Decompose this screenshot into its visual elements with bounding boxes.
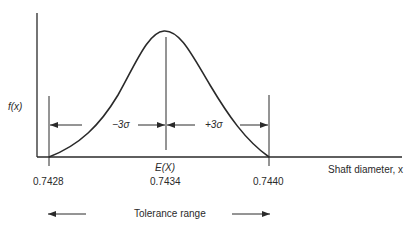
mean-label: E(X) xyxy=(155,162,175,173)
normal-curve xyxy=(49,31,269,157)
tick-label-0.7434: 0.7434 xyxy=(150,176,181,187)
tick-label-0.7440: 0.7440 xyxy=(253,176,284,187)
y-axis-label: f(x) xyxy=(8,101,22,112)
x-axis-label: Shaft diameter, x xyxy=(328,164,403,175)
minus-3sigma-label: −3σ xyxy=(112,119,129,130)
plus-3sigma-label: +3σ xyxy=(205,119,222,130)
normal-distribution-diagram xyxy=(0,0,412,231)
tick-label-0.7428: 0.7428 xyxy=(33,176,64,187)
tolerance-range-label: Tolerance range xyxy=(134,208,206,219)
